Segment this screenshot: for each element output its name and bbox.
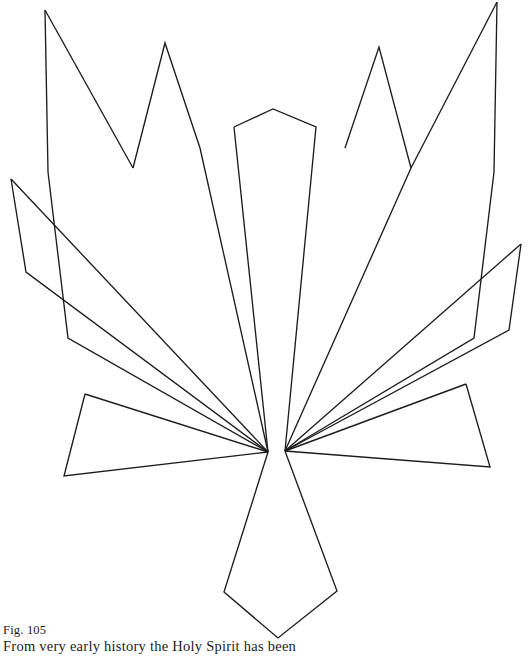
figure-caption: Fig. 105 From very early history the Hol… [3, 623, 433, 656]
tail [224, 451, 337, 638]
right-wing-band-upper-edge [285, 244, 521, 451]
right-outer-spike-inner-edge [411, 2, 497, 168]
left-outer-spike-inner-edge [45, 10, 133, 168]
left-inner-spike [133, 43, 268, 452]
dove-line-drawing [0, 0, 532, 658]
right-lower-wing-quad-top [285, 384, 466, 451]
head-kite [234, 109, 316, 451]
right-lower-wing-quad [285, 384, 490, 467]
figure-illustration [0, 0, 532, 658]
figure-caption-text: From very early history the Holy Spirit … [3, 638, 433, 656]
figure-number-label: Fig. 105 [3, 623, 433, 638]
head-kite-left-edge [234, 127, 268, 452]
